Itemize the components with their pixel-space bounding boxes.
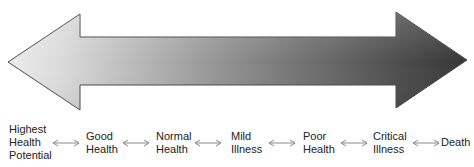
double-arrow-icon xyxy=(122,139,150,147)
stage-label-line: Death xyxy=(441,136,470,149)
stage-label-line: Mild xyxy=(231,130,262,143)
double-headed-gradient-arrow-icon xyxy=(0,0,474,120)
stage-label-line: Illness xyxy=(373,143,407,156)
stage-critical-illness: Critical Illness xyxy=(373,130,407,156)
stage-good-health: Good Health xyxy=(86,130,118,156)
stage-label-line: Potential xyxy=(9,149,52,162)
stage-label-line: Poor xyxy=(303,130,335,143)
stage-poor-health: Poor Health xyxy=(303,130,335,156)
stage-label-line: Good xyxy=(86,130,118,143)
continuum-arrow xyxy=(0,0,474,120)
double-arrow-icon xyxy=(52,139,80,147)
stage-label-line: Normal xyxy=(156,130,191,143)
double-arrow-icon xyxy=(194,139,222,147)
stage-label-line: Health xyxy=(86,143,118,156)
stage-normal-health: Normal Health xyxy=(156,130,191,156)
stage-mild-illness: Mild Illness xyxy=(231,130,262,156)
stage-label-line: Highest xyxy=(9,123,52,136)
double-arrow-icon xyxy=(340,139,368,147)
stage-label-line: Health xyxy=(303,143,335,156)
stage-label-line: Critical xyxy=(373,130,407,143)
stage-highest-health-potential: Highest Health Potential xyxy=(9,123,52,162)
stage-label-line: Health xyxy=(9,136,52,149)
stage-death: Death xyxy=(441,136,470,149)
double-arrow-icon xyxy=(412,139,440,147)
stage-label-line: Illness xyxy=(231,143,262,156)
double-arrow-icon xyxy=(268,139,296,147)
stage-label-line: Health xyxy=(156,143,191,156)
